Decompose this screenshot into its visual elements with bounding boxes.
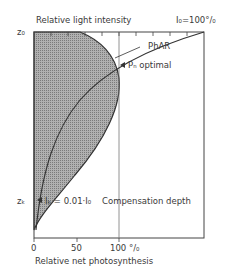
x-axis-label: Relative net photosynthesis	[35, 256, 153, 266]
z0-label: z₀	[17, 27, 25, 37]
io-label: I₀=100°/₀	[176, 15, 216, 25]
tick-50: 50	[71, 243, 82, 253]
compensation-label: Compensation depth	[102, 196, 191, 206]
zk-label: zₖ	[17, 196, 25, 206]
chart-canvas	[0, 0, 227, 278]
phar-label: PhAR	[148, 41, 170, 51]
tick-0: 0	[31, 243, 36, 253]
pn-optimal-label: Pₙ optimal	[128, 60, 171, 70]
ik-label: Iₖ = 0.01·I₀	[45, 196, 91, 206]
bottom-ticks	[34, 238, 119, 242]
tick-100: 100 °/₀	[110, 243, 139, 253]
top-axis-label: Relative light intensity	[36, 15, 131, 25]
